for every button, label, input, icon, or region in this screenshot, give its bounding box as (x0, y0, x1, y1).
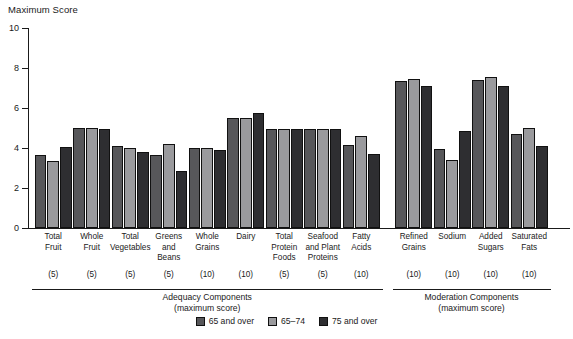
y-tick-label-8: 8 (0, 64, 19, 73)
y-tick-0 (22, 228, 29, 229)
x-axis-line (28, 228, 570, 229)
bar-group (150, 28, 189, 228)
bar (498, 86, 510, 228)
x-axis-max-score: (10) (338, 270, 385, 279)
y-tick-label-2: 2 (0, 184, 19, 193)
bar-group (304, 28, 343, 228)
bar-group (34, 28, 73, 228)
legend-swatch-icon (196, 317, 205, 326)
bar (124, 148, 136, 228)
bar (304, 129, 316, 228)
section-label: Moderation Components (maximum score) (393, 292, 551, 313)
bar-group-bars (265, 28, 304, 228)
section-label: Adequacy Components (maximum score) (32, 292, 383, 313)
bar (291, 129, 303, 228)
bar-group (188, 28, 227, 228)
bar (214, 150, 226, 228)
plot-area (28, 28, 570, 228)
y-tick-label-0: 0 (0, 224, 19, 233)
bar (343, 145, 355, 228)
bar-group-bars (433, 28, 472, 228)
bar (47, 161, 59, 228)
bar (434, 149, 446, 228)
bar (278, 129, 290, 228)
bar-group-bars (472, 28, 511, 228)
bar (137, 152, 149, 228)
bar-group (342, 28, 381, 228)
bar (355, 136, 367, 228)
legend-label: 65–74 (281, 316, 305, 326)
legend-label: 65 and over (209, 316, 254, 326)
y-tick-label-6: 6 (0, 104, 19, 113)
bar (536, 146, 548, 228)
bar-group-bars (188, 28, 227, 228)
bar (459, 131, 471, 228)
bar (60, 147, 72, 228)
legend-item[interactable]: 65 and over (196, 316, 254, 326)
legend-item[interactable]: 75 and over (319, 316, 377, 326)
bar-group (472, 28, 511, 228)
bar (112, 146, 124, 228)
y-axis-title: Maximum Score (8, 4, 78, 15)
bar (472, 80, 484, 228)
bar (150, 155, 162, 228)
bar-group-bars (111, 28, 150, 228)
bar (227, 118, 239, 228)
y-tick-label-10: 10 (0, 24, 19, 33)
bar (330, 129, 342, 228)
bar (253, 113, 265, 228)
bar (266, 129, 278, 228)
bar-group-bars (150, 28, 189, 228)
bar (163, 144, 175, 228)
bar (176, 171, 188, 228)
bar-group (73, 28, 112, 228)
bar-group-bars (342, 28, 381, 228)
bar-group (510, 28, 549, 228)
section-rule (32, 289, 383, 290)
bar (421, 86, 433, 228)
bar-group (433, 28, 472, 228)
bar-group (395, 28, 434, 228)
bar (73, 128, 85, 228)
bar (86, 128, 98, 228)
bar (189, 148, 201, 228)
bar-group-bars (34, 28, 73, 228)
legend-item[interactable]: 65–74 (268, 316, 305, 326)
bar-group-bars (227, 28, 266, 228)
bar (485, 77, 497, 228)
bar (511, 134, 523, 228)
x-axis-label: Fatty Acids (338, 232, 385, 253)
bar-group-bars (73, 28, 112, 228)
x-axis-label: Saturated Fats (506, 232, 553, 253)
bar-group-bars (395, 28, 434, 228)
chart-legend: 65 and over65–7475 and over (0, 316, 573, 326)
bar (408, 79, 420, 228)
x-axis-max-score: (10) (506, 270, 553, 279)
bar-group-bars (510, 28, 549, 228)
bar-group (227, 28, 266, 228)
bar (240, 118, 252, 228)
bar-group (111, 28, 150, 228)
section-rule (393, 289, 551, 290)
bar (446, 160, 458, 228)
bar (317, 129, 329, 228)
legend-label: 75 and over (332, 316, 377, 326)
bar (201, 148, 213, 228)
bar (395, 81, 407, 228)
y-tick-label-4: 4 (0, 144, 19, 153)
chart-figure: Maximum Score 0246810 Total Fruit(5)Whol… (0, 0, 573, 339)
bar (523, 128, 535, 228)
bar (35, 155, 47, 228)
bar (99, 129, 111, 228)
bar-group (265, 28, 304, 228)
legend-swatch-icon (268, 317, 277, 326)
legend-swatch-icon (319, 317, 328, 326)
bar-group-bars (304, 28, 343, 228)
bar (368, 154, 380, 228)
